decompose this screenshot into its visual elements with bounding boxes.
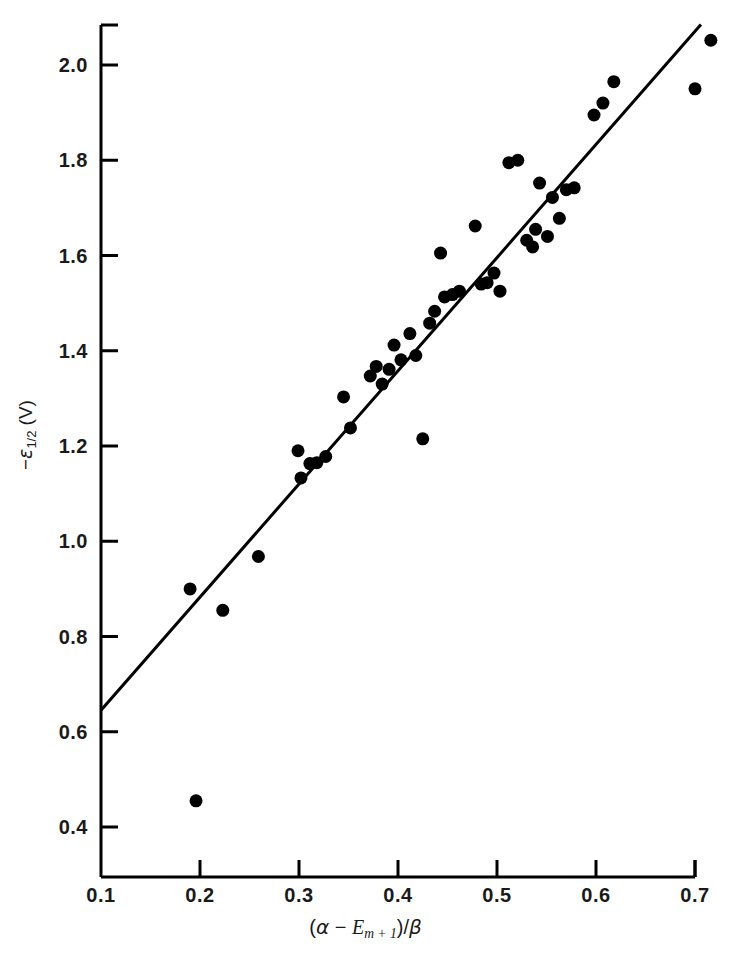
x-axis-minus-sign: − [335, 916, 347, 938]
data-point [252, 550, 265, 563]
data-point [294, 471, 307, 484]
y-axis-subscript: 1/2 [24, 431, 39, 449]
y-tick-label: 0.4 [30, 816, 88, 839]
data-point [434, 247, 447, 260]
data-point [553, 212, 566, 225]
data-point [403, 327, 416, 340]
axes-group [101, 25, 695, 877]
x-tick-label: 0.7 [680, 884, 709, 907]
data-point [337, 390, 350, 403]
fit-line-segment [101, 25, 701, 711]
data-point [216, 604, 229, 617]
y-tick-label: 1.4 [30, 339, 88, 362]
data-point [376, 378, 389, 391]
data-point [704, 34, 717, 47]
x-axis-open-paren: ( [309, 916, 316, 938]
data-point [493, 285, 506, 298]
x-tick-label: 0.2 [185, 884, 214, 907]
data-point [319, 450, 332, 463]
data-point [184, 582, 197, 595]
data-point [344, 421, 357, 434]
data-point [526, 240, 539, 253]
data-point [541, 230, 554, 243]
y-tick-label: 1.2 [30, 435, 88, 458]
fit-line [101, 25, 701, 711]
data-point [588, 109, 601, 122]
data-point [488, 267, 501, 280]
data-point [190, 794, 203, 807]
data-point [428, 305, 441, 318]
y-axis-minus-sign: − [15, 459, 36, 470]
data-point [546, 191, 559, 204]
y-tick-label: 1.6 [30, 244, 88, 267]
y-tick-label: 0.8 [30, 625, 88, 648]
y-tick-label: 1.8 [30, 149, 88, 172]
x-axis-close-paren: )/ [397, 916, 409, 938]
x-tick-label: 0.4 [383, 884, 412, 907]
y-axis-epsilon-symbol: ε [14, 449, 36, 459]
y-tick-label: 2.0 [30, 54, 88, 77]
x-tick-label: 0.1 [86, 884, 115, 907]
data-point [529, 223, 542, 236]
data-point [394, 353, 407, 366]
data-point [469, 219, 482, 232]
y-axis-title: −ε1/2 (V) [14, 400, 39, 470]
x-tick-label: 0.5 [482, 884, 511, 907]
data-point [409, 349, 422, 362]
data-point [383, 363, 396, 376]
scatter-plot-figure: 0.40.60.81.01.21.41.61.82.00.10.20.30.40… [0, 0, 731, 953]
x-axis-title: (α − Em + 1)/β [0, 915, 731, 942]
data-points-group [184, 34, 718, 808]
y-tick-label: 1.0 [30, 530, 88, 553]
x-axis-E-symbol: E [352, 916, 364, 938]
data-point [533, 177, 546, 190]
data-point [568, 181, 581, 194]
data-point [607, 75, 620, 88]
x-axis-beta-symbol: β [409, 915, 422, 939]
x-axis-alpha-symbol: α [316, 915, 329, 939]
data-point [388, 339, 401, 352]
data-point [596, 97, 609, 110]
data-point [453, 285, 466, 298]
data-point [689, 82, 702, 95]
x-axis-E-subscript: m + 1 [364, 926, 397, 941]
data-point [292, 444, 305, 457]
data-point [370, 360, 383, 373]
data-point [416, 432, 429, 445]
y-axis-units: (V) [15, 400, 36, 425]
x-tick-label: 0.3 [284, 884, 313, 907]
data-point [511, 154, 524, 167]
plot-canvas [0, 0, 731, 953]
data-point [423, 317, 436, 330]
x-tick-label: 0.6 [581, 884, 610, 907]
y-tick-label: 0.6 [30, 720, 88, 743]
